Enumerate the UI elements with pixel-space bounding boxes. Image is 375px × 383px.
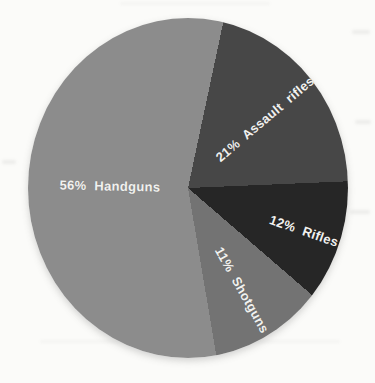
scan-artifact (350, 210, 370, 214)
scan-artifact (352, 30, 370, 34)
scan-artifact (355, 120, 371, 124)
scanned-page: 21% Assault rifles12% Rifles11% Shotguns… (0, 0, 375, 383)
scan-artifact (120, 2, 270, 5)
scan-artifact (2, 160, 16, 164)
pie-chart (28, 18, 348, 358)
